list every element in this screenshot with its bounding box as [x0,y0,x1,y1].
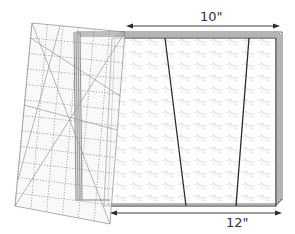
bottom-dimension-arrow [110,211,282,216]
top-dimension-label: 10" [200,10,223,23]
bottom-dimension-label: 12" [226,216,249,229]
top-dimension-arrow [126,24,280,29]
quilting-ruler [15,23,125,224]
fabric-layer-front [104,38,276,206]
diagram-canvas [0,0,295,234]
fabric-stack [104,32,282,206]
quilt-cutting-diagram: 10" 12" [0,0,295,234]
